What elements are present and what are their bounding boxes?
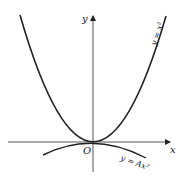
origin-label: O [83, 145, 91, 156]
parabola-diagram: y x O y = x² y = Ax² [0, 0, 188, 178]
lower-curve-label: y = Ax² [118, 153, 150, 172]
x-axis-label: x [170, 144, 176, 155]
upper-curve-label: y = x² [149, 21, 165, 48]
y-axis-label: y [81, 13, 88, 24]
